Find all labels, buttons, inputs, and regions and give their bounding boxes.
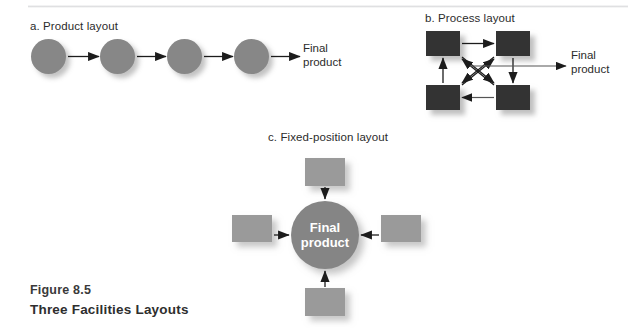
fixed-position-node-left [232,215,272,242]
center-label-line2: product [301,235,349,250]
fixed-position-node-right [381,215,421,242]
panel-a-output-label: Final product [303,41,341,69]
scan-artifact-line [28,5,628,8]
panel-b-label: b. Process layout [425,12,515,24]
figure-container: a. Product layout Final product b. Proce… [0,0,643,333]
figure-caption-title: Three Facilities Layouts [30,302,189,317]
product-layout-node-3 [167,39,202,74]
product-layout-node-1 [31,39,66,74]
fixed-position-center-node: Final product [291,201,359,269]
panel-b-output-line1: Final [571,48,609,62]
process-layout-node-bottom-right [496,85,530,110]
panel-a-label: a. Product layout [30,20,118,32]
figure-caption-number: Figure 8.5 [30,283,91,297]
product-layout-node-2 [100,39,135,74]
panel-a-output-line1: Final [303,41,341,55]
process-layout-node-bottom-left [426,85,460,110]
process-layout-node-top-right [496,31,530,56]
center-label-line1: Final [310,220,340,235]
process-layout-node-top-left [426,31,460,56]
fixed-position-node-bottom [305,288,345,316]
panel-b-output-line2: product [571,62,609,76]
product-layout-node-4 [234,39,269,74]
panel-a-output-line2: product [303,55,341,69]
fixed-position-node-top [305,158,345,186]
panel-b-output-label: Final product [571,48,609,76]
panel-c-label: c. Fixed-position layout [268,131,388,143]
